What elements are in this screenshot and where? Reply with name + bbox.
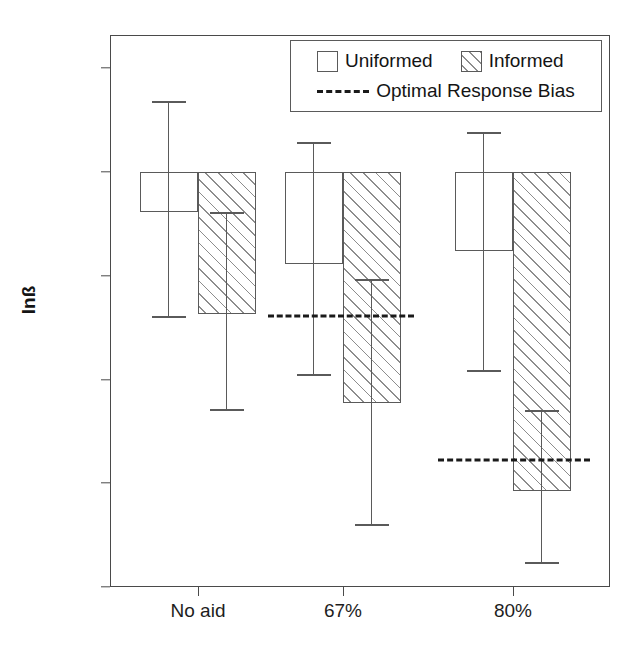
legend-swatch-uniformed-icon	[317, 51, 338, 72]
y-tick-mark-2	[101, 275, 110, 276]
errorbar-cap-lower-informed-no-aid	[210, 409, 244, 411]
legend-label-optimal-response-bias: Optimal Response Bias	[376, 80, 575, 102]
y-tick-mark-0	[101, 67, 110, 68]
x-tick-label-80: 80%	[494, 600, 532, 622]
errorbar-cap-upper-uniformed-67	[297, 142, 331, 144]
errorbar-stem-uniformed-no-aid	[168, 102, 169, 316]
y-tick-mark-5	[101, 586, 110, 587]
x-tick-label-no-aid: No aid	[171, 600, 226, 622]
errorbar-cap-lower-uniformed-80	[467, 370, 501, 372]
errorbar-cap-lower-informed-67	[355, 524, 389, 526]
optimal-response-bias-line-80	[438, 459, 590, 462]
errorbar-stem-informed-no-aid	[226, 213, 227, 409]
errorbar-cap-upper-informed-67	[355, 279, 389, 281]
errorbar-cap-lower-uniformed-67	[297, 374, 331, 376]
errorbar-stem-uniformed-67	[313, 143, 314, 374]
legend-label-uniformed: Uniformed	[345, 50, 433, 72]
x-tick-label-67: 67%	[324, 600, 362, 622]
errorbar-stem-uniformed-80	[483, 133, 484, 372]
x-tick-mark-1	[343, 587, 344, 596]
legend-row-reference: Optimal Response Bias	[291, 77, 601, 105]
errorbar-cap-upper-uniformed-80	[467, 132, 501, 134]
y-tick-mark-1	[101, 171, 110, 172]
chart-root: lnß 0.50 0.00 -0.50 -1.00 -1.50 -2.00	[0, 0, 632, 645]
y-tick-mark-3	[101, 379, 110, 380]
errorbar-cap-lower-informed-80	[525, 562, 559, 564]
legend-label-informed: Informed	[489, 50, 564, 72]
errorbar-cap-upper-informed-80	[525, 410, 559, 412]
legend: Uniformed Informed Optimal Response Bias	[290, 40, 602, 112]
y-tick-mark-4	[101, 482, 110, 483]
errorbar-stem-informed-80	[541, 411, 542, 563]
x-tick-mark-2	[513, 587, 514, 596]
optimal-response-bias-line-67	[268, 315, 414, 318]
y-axis-title: lnß	[18, 286, 40, 315]
x-tick-mark-0	[198, 587, 199, 596]
errorbar-cap-upper-informed-no-aid	[210, 212, 244, 214]
legend-swatch-informed-icon	[461, 51, 482, 72]
legend-dashed-line-icon	[317, 90, 369, 93]
errorbar-cap-upper-uniformed-no-aid	[152, 101, 186, 103]
legend-row-series: Uniformed Informed	[291, 47, 601, 75]
errorbar-cap-lower-uniformed-no-aid	[152, 316, 186, 318]
